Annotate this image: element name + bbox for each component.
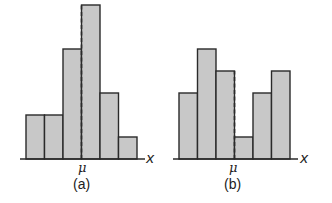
- histogram-bar: [119, 137, 138, 159]
- histogram-bar: [82, 5, 101, 159]
- mean-label-b: μ: [229, 160, 237, 175]
- histogram-bar: [26, 115, 45, 159]
- x-axis-label-a: x: [146, 150, 154, 166]
- histogram-bar: [100, 93, 119, 159]
- mean-label-a: μ: [78, 160, 86, 175]
- caption-a: (a): [73, 176, 90, 192]
- histogram-figure: [0, 0, 332, 203]
- caption-b: (b): [224, 176, 241, 192]
- histogram-bar: [272, 71, 291, 159]
- histogram-bar: [179, 93, 198, 159]
- histogram-bar: [45, 115, 64, 159]
- x-axis-label-b: x: [300, 150, 308, 166]
- histogram-bar: [235, 137, 254, 159]
- histogram-b: [173, 49, 298, 159]
- histogram-bar: [63, 49, 82, 159]
- histogram-bar: [198, 49, 217, 159]
- histogram-a: [20, 5, 145, 159]
- histogram-bar: [216, 71, 235, 159]
- histogram-bar: [253, 93, 272, 159]
